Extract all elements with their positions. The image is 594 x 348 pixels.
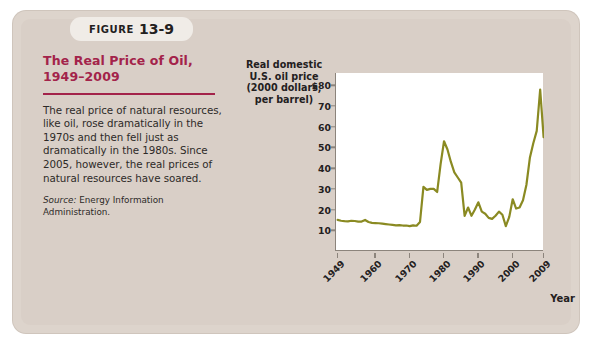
source-note: Source: Energy Information Administratio… [43,194,233,218]
plot-area [335,73,543,251]
x-tick-label: 1960 [354,258,384,288]
y-tick-mark [331,85,336,86]
plot-wrapper: $8070605040302010 1949196019701980199020… [335,73,545,253]
y-tick-label: $80 [297,80,331,91]
page-title: The Real Price of Oil, 1949–2009 [43,53,233,84]
caption-column: The Real Price of Oil, 1949–2009 The rea… [43,53,233,218]
y-tick-mark [331,167,336,168]
x-tick-label: 1970 [388,258,418,288]
y-tick-mark [331,147,336,148]
y-tick-mark [331,209,336,210]
title-divider [43,93,215,95]
y-tick-label: 50 [297,142,331,153]
y-tick-label: 70 [297,101,331,112]
x-tick-label: 2000 [491,258,521,288]
figure-label: FIGURE [89,24,134,35]
figure-card: FIGURE 13-9 The Real Price of Oil, 1949–… [13,11,579,333]
y-tick-label: 30 [297,183,331,194]
x-tick-label: 2009 [522,258,552,288]
x-tick-label: 1990 [457,258,487,288]
y-tick-mark [331,230,336,231]
y-tick-label: 60 [297,121,331,132]
caption-body: The real price of natural resources, lik… [43,104,233,186]
chart: Real domestic U.S. oil price (2000 dolla… [245,51,575,321]
y-tick-mark [331,105,336,106]
y-tick-label: 40 [297,163,331,174]
y-tick-mark [331,188,336,189]
x-axis-title: Year [550,293,575,304]
y-tick-mark [331,126,336,127]
figure-number: 13-9 [139,21,174,37]
x-tick-label: 1949 [316,258,346,288]
figure-number-tab: FIGURE 13-9 [70,17,193,41]
y-tick-label: 10 [297,225,331,236]
line-series [336,73,544,251]
source-label: Source: [43,195,76,205]
y-tick-label: 20 [297,204,331,215]
x-tick-label: 1980 [422,258,452,288]
